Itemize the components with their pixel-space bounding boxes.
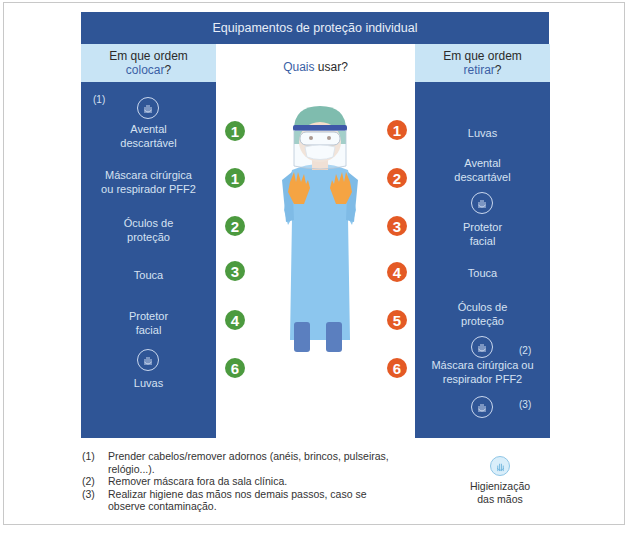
doffing-item-goggles: Óculos de proteção [415,300,550,328]
doffing-item-gown: Avental descartável [415,156,550,184]
doffing-step-badge: 1 [387,120,407,140]
donning-header-line1: Em que ordem [81,49,216,63]
donning-item-mask: Máscara cirúrgica ou respirador PFF2 [81,168,216,196]
which-accent: Quais [283,60,314,74]
hand-hygiene-icon [137,97,159,119]
label: respirador PFF2 [415,372,550,386]
which-rest: usar? [315,60,348,74]
hand-hygiene-icon [471,192,493,214]
footnote-number: (1) [82,450,108,475]
note-marker-3: (3) [519,399,531,410]
hand-hygiene-icon [471,396,493,418]
label: proteção [415,314,550,328]
label: facial [415,234,550,248]
label: Óculos de [415,300,550,314]
donning-step-badge: 1 [225,168,245,188]
donning-step-badge: 6 [225,358,245,378]
healthcare-worker-illustration [260,100,380,385]
donning-item-cap: Touca [81,268,216,282]
footnote-text: Realizar higiene das mãos nos demais pas… [108,488,398,513]
label: Avental [81,122,216,136]
legend-label: das mãos [460,493,540,506]
label: Touca [81,268,216,282]
doffing-header: Em que ordem retirar? [415,44,550,82]
donning-step-badge: 4 [225,310,245,330]
footnotes: (1) Prender cabelos/remover adornos (ané… [82,450,398,513]
donning-step-badge: 3 [225,261,245,281]
footnote-number: (3) [82,488,108,513]
doffing-header-line1: Em que ordem [415,49,550,63]
doffing-list: Luvas Avental descartável Protetor facia… [415,82,550,438]
donning-column: Em que ordem colocar? (1) Avental descar… [81,44,216,438]
donning-header: Em que ordem colocar? [81,44,216,82]
label: Máscara cirúrgica ou [415,358,550,372]
title: Equipamentos de proteção individual [213,21,418,35]
donning-list: (1) Avental descartável Máscara cirúrgic… [81,82,216,438]
doffing-item-gloves: Luvas [415,126,550,140]
doffing-header-suffix: ? [495,63,502,77]
label: Luvas [415,126,550,140]
donning-header-suffix: ? [165,63,172,77]
label: Óculos de [81,216,216,230]
legend: Higienização das mãos [460,456,540,505]
legend-label: Higienização [460,480,540,493]
hand-hygiene-icon [471,336,493,358]
doffing-column: Em que ordem retirar? Luvas Avental desc… [415,44,550,438]
label: descartável [81,136,216,150]
footnote-2: (2) Remover máscara fora da sala clínica… [82,475,398,488]
label: facial [81,323,216,337]
title-bar: Equipamentos de proteção individual [81,12,549,44]
doffing-step-badge: 6 [387,358,407,378]
note-marker-1: (1) [93,94,105,105]
doffing-step-badge: 5 [387,310,407,330]
doffing-item-cap: Touca [415,266,550,280]
label: Touca [415,266,550,280]
doffing-item-face-shield: Protetor facial [415,220,550,248]
note-marker-2: (2) [519,345,531,356]
hand-hygiene-icon [137,349,159,371]
label: proteção [81,230,216,244]
which-to-use-header: Quais usar? [216,60,415,74]
doffing-header-accent: retirar [463,63,494,77]
label: Máscara cirúrgica [81,168,216,182]
donning-item-goggles: Óculos de proteção [81,216,216,244]
footnote-text: Prender cabelos/remover adornos (anéis, … [108,450,398,475]
donning-header-accent: colocar [126,63,165,77]
donning-step-badge: 2 [225,216,245,236]
label: descartável [415,170,550,184]
footnote-text: Remover máscara fora da sala clínica. [108,475,398,488]
donning-item-face-shield: Protetor facial [81,309,216,337]
footnote-1: (1) Prender cabelos/remover adornos (ané… [82,450,398,475]
doffing-step-badge: 4 [387,262,407,282]
doffing-step-badge: 3 [387,216,407,236]
donning-item-gloves: Luvas [81,376,216,390]
doffing-item-mask: Máscara cirúrgica ou respirador PFF2 [415,358,550,386]
donning-item-gown: Avental descartável [81,122,216,150]
label: Protetor [415,220,550,234]
label: ou respirador PFF2 [81,182,216,196]
footnote-3: (3) Realizar higiene das mãos nos demais… [82,488,398,513]
hand-hygiene-icon [490,456,510,476]
label: Protetor [81,309,216,323]
footnote-number: (2) [82,475,108,488]
doffing-step-badge: 2 [387,168,407,188]
label: Avental [415,156,550,170]
label: Luvas [81,376,216,390]
donning-step-badge: 1 [225,121,245,141]
